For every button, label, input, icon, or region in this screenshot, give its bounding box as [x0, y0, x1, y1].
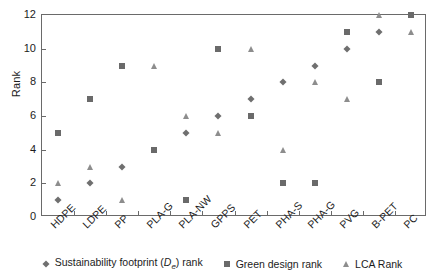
- legend-label: Green design rank: [236, 258, 322, 270]
- data-point-diamond: [87, 180, 94, 187]
- data-point-diamond: [183, 129, 190, 136]
- y-axis-tick-mark: [42, 183, 46, 184]
- data-point-square: [151, 147, 157, 153]
- data-point-square: [119, 63, 125, 69]
- data-point-diamond: [54, 197, 61, 204]
- chart-legend: Sustainability footprint (De) rankGreen …: [0, 256, 444, 271]
- data-point-triangle: [344, 96, 350, 102]
- data-point-triangle: [408, 29, 414, 35]
- y-axis-tick-label: 8: [10, 75, 36, 87]
- y-axis-tick-label: 4: [10, 143, 36, 155]
- diamond-icon: [42, 260, 49, 267]
- y-axis-tick-mark: [42, 49, 46, 50]
- triangle-icon: [343, 261, 349, 267]
- data-point-triangle: [183, 113, 189, 119]
- square-icon: [224, 261, 230, 267]
- data-point-triangle: [215, 130, 221, 136]
- data-point-square: [280, 180, 286, 186]
- data-point-triangle: [248, 46, 254, 52]
- legend-item: LCA Rank: [342, 258, 402, 270]
- data-point-square: [183, 197, 189, 203]
- y-axis-tick-label: 6: [10, 109, 36, 121]
- y-axis-tick-mark: [42, 116, 46, 117]
- y-axis-tick-label: 12: [10, 8, 36, 20]
- data-point-square: [55, 130, 61, 136]
- data-point-square: [215, 46, 221, 52]
- data-point-triangle: [151, 63, 157, 69]
- data-point-square: [248, 113, 254, 119]
- plot-area: [41, 14, 426, 216]
- legend-label: LCA Rank: [355, 258, 402, 270]
- legend-label: Sustainability footprint (De) rank: [55, 256, 203, 271]
- data-point-diamond: [311, 62, 318, 69]
- data-point-square: [344, 29, 350, 35]
- data-point-diamond: [215, 112, 222, 119]
- legend-item: Green design rank: [223, 258, 322, 270]
- y-axis-tick-mark: [42, 82, 46, 83]
- data-point-diamond: [247, 96, 254, 103]
- x-axis-tick-mark: [363, 211, 364, 215]
- data-point-diamond: [119, 163, 126, 170]
- data-point-triangle: [312, 79, 318, 85]
- data-point-triangle: [376, 12, 382, 18]
- x-axis-tick-mark: [267, 211, 268, 215]
- x-axis-tick-mark: [138, 211, 139, 215]
- data-point-triangle: [87, 164, 93, 170]
- data-point-triangle: [55, 180, 61, 186]
- data-point-diamond: [343, 45, 350, 52]
- data-point-square: [312, 180, 318, 186]
- data-point-diamond: [279, 79, 286, 86]
- data-point-triangle: [280, 147, 286, 153]
- legend-item: Sustainability footprint (De) rank: [42, 256, 203, 271]
- data-point-square: [408, 12, 414, 18]
- y-axis-tick-label: 10: [10, 42, 36, 54]
- chart-root: Rank 024681012 HDPELDPEPPPLA-GPLA-NWGPPS…: [0, 0, 444, 279]
- data-point-diamond: [375, 28, 382, 35]
- data-point-triangle: [119, 197, 125, 203]
- y-axis-tick-mark: [42, 150, 46, 151]
- legend-marker-diamond-icon: [42, 260, 50, 268]
- data-point-square: [376, 79, 382, 85]
- y-axis-tick-label: 2: [10, 176, 36, 188]
- legend-marker-square-icon: [223, 260, 231, 268]
- y-axis-tick-label: 0: [10, 210, 36, 222]
- data-point-square: [87, 96, 93, 102]
- legend-marker-triangle-icon: [342, 260, 350, 268]
